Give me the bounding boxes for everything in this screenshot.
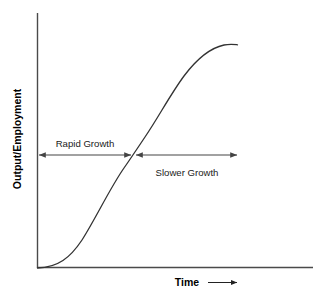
rapid-growth-label: Rapid Growth [56, 138, 115, 149]
x-axis-title: Time [175, 276, 199, 288]
y-axis-title: Output/Employment [11, 88, 23, 189]
growth-curve [38, 44, 238, 268]
slower-growth-label: Slower Growth [156, 167, 219, 178]
s-curve-chart: Rapid Growth Slower Growth Output/Employ… [0, 0, 327, 300]
chart-figure: Rapid Growth Slower Growth Output/Employ… [0, 0, 327, 300]
